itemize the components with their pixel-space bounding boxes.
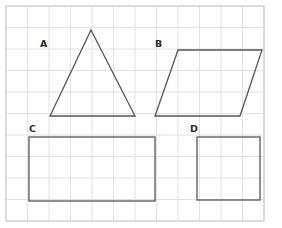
grid-figure: A B C D <box>0 0 282 228</box>
shape-label-c: C <box>29 123 36 134</box>
worksheet-canvas: A B C D <box>0 0 282 228</box>
shape-label-d: D <box>190 123 198 134</box>
parallelogram-shape-b[interactable] <box>155 50 262 116</box>
square-shape-d[interactable] <box>197 137 260 200</box>
shape-label-a: A <box>40 38 48 49</box>
shape-label-b: B <box>155 38 162 49</box>
